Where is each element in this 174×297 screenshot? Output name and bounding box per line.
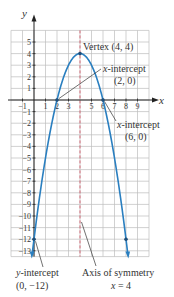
y-tick-label: 1: [27, 84, 31, 93]
x-intercept-1-label: x-intercept: [102, 63, 146, 74]
y-intercept-leader: [36, 241, 44, 267]
axis-of-symmetry-equation: x = 4: [110, 280, 131, 291]
x-axis-arrow-icon: [152, 98, 159, 103]
x-intercept-2-coords: (6, 0): [125, 131, 147, 143]
x-tick-label: 1: [44, 102, 48, 111]
y-tick-label: −13: [18, 247, 31, 256]
y-tick-label: −10: [18, 212, 31, 221]
y-tick-label: −7: [22, 177, 31, 186]
x-intercept-1-coords: (2, 0): [114, 75, 136, 87]
y-tick-label: 4: [27, 50, 31, 59]
vertex-label: Vertex (4, 4): [83, 41, 133, 53]
y-tick-label: −2: [22, 119, 31, 128]
key-point: [124, 237, 128, 241]
x-tick-label: 7: [113, 102, 117, 111]
x-tick-label: 3: [67, 102, 71, 111]
axis-of-symmetry-label: Axis of symmetry: [82, 267, 154, 278]
key-point: [78, 52, 82, 56]
y-tick-label: 2: [27, 73, 31, 82]
y-tick-label: −1: [22, 108, 31, 117]
x-axis-label: x: [158, 94, 164, 106]
y-intercept-text: -intercept: [20, 267, 59, 278]
y-axis-arrow-icon: [32, 14, 37, 21]
y-intercept-coords: (0, −12): [16, 280, 48, 292]
x-tick-label: 9: [136, 102, 140, 111]
key-point: [32, 237, 36, 241]
y-tick-label: −5: [22, 154, 31, 163]
y-tick-label: −8: [22, 189, 31, 198]
key-point: [101, 98, 105, 102]
y-tick-label: −11: [19, 224, 31, 233]
axis-of-symmetry-leader: [82, 222, 97, 266]
key-point: [55, 98, 59, 102]
parabola-chart: −11235678954321−1−2−3−4−5−6−7−8−9−10−11−…: [0, 0, 174, 297]
y-axis-label: y: [21, 7, 27, 19]
x-tick-label: 5: [90, 102, 94, 111]
x-intercept-1-text: -intercept: [107, 63, 146, 74]
y-tick-label: −3: [22, 131, 31, 140]
y-tick-label: −12: [18, 235, 31, 244]
y-tick-label: 5: [27, 38, 31, 47]
y-tick-label: −9: [22, 200, 31, 209]
y-intercept-label: y-intercept: [15, 267, 59, 278]
y-tick-label: −4: [22, 142, 31, 151]
y-tick-label: −6: [22, 166, 31, 175]
axis-of-symmetry-value: = 4: [115, 280, 131, 291]
y-tick-label: 3: [27, 61, 31, 70]
x-intercept-2-text: -intercept: [121, 119, 160, 130]
x-intercept-2-label: x-intercept: [116, 119, 160, 130]
x-tick-label: 8: [124, 102, 128, 111]
